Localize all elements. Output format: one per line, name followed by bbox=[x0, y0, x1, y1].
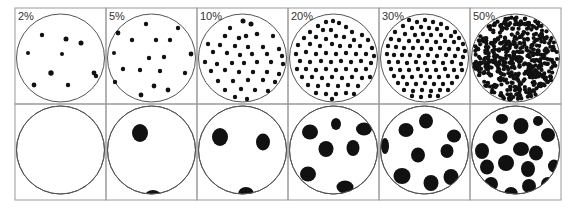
particle-dot bbox=[338, 44, 342, 48]
particle-dot bbox=[308, 60, 312, 64]
particle-dot bbox=[482, 36, 486, 40]
particle-dot bbox=[552, 61, 556, 65]
particle-dot bbox=[26, 51, 30, 55]
particle-dot bbox=[546, 49, 550, 53]
particle-dot bbox=[490, 88, 494, 92]
particle-dot bbox=[517, 22, 521, 26]
particle-dot bbox=[329, 60, 333, 64]
particle-dot bbox=[40, 33, 44, 37]
particle-dot bbox=[539, 39, 543, 43]
particle-dot bbox=[531, 64, 535, 68]
coalesced-state-circle bbox=[290, 106, 378, 194]
particle-dot bbox=[488, 59, 492, 63]
particle-dot bbox=[321, 28, 325, 32]
particle-dot bbox=[547, 41, 551, 45]
particle-dot bbox=[402, 46, 406, 50]
particle-dot bbox=[189, 52, 194, 57]
particle-dot bbox=[405, 82, 409, 86]
particle-dot bbox=[230, 61, 234, 65]
particle-dot bbox=[369, 61, 373, 65]
particle-dot bbox=[348, 44, 352, 48]
particle-dot bbox=[513, 36, 517, 40]
panel-2pct: 2% bbox=[15, 8, 106, 200]
particle-dot bbox=[521, 79, 525, 83]
coalesced-blob bbox=[424, 175, 439, 191]
particle-dot bbox=[504, 26, 508, 30]
particle-dot bbox=[228, 26, 232, 30]
coalesced-blob bbox=[514, 118, 529, 134]
particle-dot bbox=[372, 54, 376, 58]
initial-state-circle bbox=[17, 14, 105, 102]
particle-dot bbox=[435, 54, 439, 58]
particle-dot bbox=[370, 46, 374, 50]
particle-dot bbox=[503, 17, 507, 21]
particle-dot bbox=[334, 52, 338, 56]
particle-dot bbox=[410, 94, 414, 98]
particle-dot bbox=[461, 55, 465, 59]
particle-dot bbox=[491, 28, 495, 32]
particle-dot bbox=[426, 53, 430, 57]
particle-dot bbox=[318, 44, 322, 48]
particle-dot bbox=[437, 75, 441, 79]
particle-dot bbox=[446, 88, 450, 92]
particle-dot bbox=[526, 22, 530, 26]
particle-dot bbox=[168, 38, 172, 42]
particle-dot bbox=[350, 30, 354, 34]
particle-dot bbox=[502, 21, 506, 25]
particle-dot bbox=[533, 69, 537, 73]
particle-dot bbox=[495, 20, 499, 24]
panel-10pct: 10% bbox=[197, 8, 288, 201]
volume-fraction-label: 30% bbox=[382, 10, 404, 22]
particle-dot bbox=[534, 52, 538, 56]
particle-dot bbox=[64, 37, 69, 42]
particle-dot bbox=[203, 60, 207, 64]
particle-dot bbox=[281, 62, 285, 66]
particle-dot bbox=[154, 38, 158, 42]
particle-dot bbox=[514, 92, 518, 96]
particle-dot bbox=[508, 93, 512, 97]
particle-dot bbox=[302, 36, 306, 40]
particle-dot bbox=[518, 50, 522, 54]
particle-dot bbox=[535, 43, 539, 47]
particle-dot bbox=[306, 83, 310, 87]
coalesced-blob bbox=[212, 128, 228, 146]
particle-dot bbox=[356, 84, 360, 88]
particle-dot bbox=[386, 44, 390, 48]
particle-dot bbox=[273, 80, 277, 84]
particle-dot bbox=[223, 34, 228, 39]
particle-dot bbox=[394, 45, 398, 49]
particle-dot bbox=[502, 96, 506, 100]
particle-dot bbox=[524, 46, 528, 50]
particle-dot bbox=[435, 27, 439, 31]
panel-20pct: 20% bbox=[288, 8, 379, 200]
particle-dot bbox=[502, 45, 506, 49]
particle-dot bbox=[314, 68, 318, 72]
particle-dot bbox=[211, 50, 215, 54]
particle-dot bbox=[431, 20, 435, 24]
particle-dot bbox=[488, 84, 492, 88]
particle-dot bbox=[331, 19, 335, 23]
particle-dot bbox=[138, 68, 142, 72]
coalesced-blob bbox=[541, 128, 555, 142]
particle-dot bbox=[354, 52, 358, 56]
particle-dot bbox=[266, 89, 270, 93]
particle-dot bbox=[249, 22, 254, 27]
particle-dot bbox=[441, 82, 445, 86]
particle-dot bbox=[48, 70, 53, 75]
particle-dot bbox=[364, 67, 368, 71]
coalesced-blob bbox=[411, 148, 425, 163]
particle-dot bbox=[344, 51, 348, 55]
particle-dot bbox=[494, 61, 498, 65]
particle-dot bbox=[147, 56, 151, 60]
particle-dot bbox=[389, 37, 393, 41]
particle-dot bbox=[551, 45, 555, 49]
panel-50pct: 50% bbox=[470, 8, 561, 201]
particle-dot bbox=[535, 38, 539, 42]
particle-dot bbox=[280, 54, 284, 58]
coalesced-blob bbox=[132, 124, 148, 142]
particle-dot bbox=[489, 65, 493, 69]
particle-dot bbox=[269, 60, 273, 64]
particle-dot bbox=[308, 42, 312, 46]
particle-dot bbox=[152, 84, 157, 89]
volume-fraction-label: 5% bbox=[109, 10, 125, 22]
